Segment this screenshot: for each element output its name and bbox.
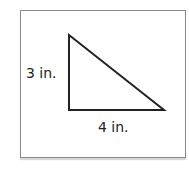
right-triangle bbox=[0, 0, 189, 170]
vertical-leg-label: 3 in. bbox=[26, 66, 57, 80]
horizontal-leg-label: 4 in. bbox=[98, 120, 129, 134]
